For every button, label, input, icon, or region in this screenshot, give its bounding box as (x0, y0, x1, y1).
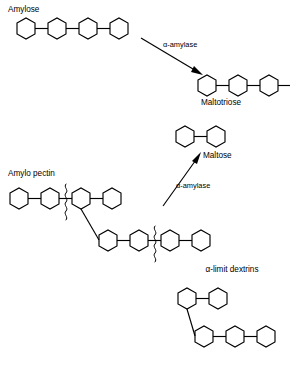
label-enzyme-alpha-amylase-top: α-amylase (163, 40, 197, 49)
label-alpha-limit-dextrins: α-limit dextrins (206, 265, 259, 274)
glucose-unit-hexagon-branch-point (72, 188, 90, 209)
glucose-unit-hexagon (198, 75, 216, 96)
alpha-1-6-branch-bond (187, 309, 195, 336)
glucose-unit-hexagon (130, 230, 148, 251)
glucose-unit-hexagon (103, 188, 121, 209)
label-enzyme-alpha-amylase-bottom: α-amylase (176, 181, 210, 190)
alpha-1-6-branch-bond (81, 209, 99, 240)
diagram-canvas: Amylose α-amylase Maltotriose Maltose (0, 0, 293, 366)
cleavage-site-squiggle (65, 184, 67, 220)
label-amylose: Amylose (8, 5, 40, 14)
glucose-unit-hexagon (260, 75, 278, 96)
arrow-head-icon (192, 152, 201, 164)
structure-alpha-limit-dextrins: α-limit dextrins (178, 265, 275, 347)
cleavage-site-squiggle (154, 226, 156, 262)
glucose-unit-hexagon (110, 18, 128, 39)
label-maltotriose: Maltotriose (201, 98, 241, 107)
glucose-unit-hexagon (48, 18, 66, 39)
glucose-unit-hexagon (195, 326, 213, 347)
glucose-unit-hexagon (209, 288, 227, 309)
glucose-unit-hexagon (79, 18, 97, 39)
glucose-unit-hexagon (161, 230, 179, 251)
glucose-unit-hexagon (226, 326, 244, 347)
reaction-arrow-amylose-to-maltotriose: α-amylase (141, 38, 203, 75)
structure-maltose: Maltose (176, 126, 232, 160)
glucose-unit-hexagon (229, 75, 247, 96)
glucose-unit-hexagon (41, 188, 59, 209)
starch-digestion-diagram: Amylose α-amylase Maltotriose Maltose (0, 0, 293, 366)
glucose-unit-hexagon (10, 188, 28, 209)
glucose-unit-hexagon (99, 230, 117, 251)
label-maltose: Maltose (203, 151, 232, 160)
glucose-unit-hexagon (207, 126, 225, 147)
glucose-unit-hexagon (176, 126, 194, 147)
structure-maltotriose: Maltotriose (198, 75, 290, 107)
glucose-unit-hexagon (192, 230, 210, 251)
structure-amylose: Amylose (8, 5, 128, 39)
glucose-unit-hexagon (257, 326, 275, 347)
label-amylopectin: Amylo pectin (8, 169, 55, 178)
reaction-arrow-amylopectin-to-maltose: α-amylase (163, 152, 210, 206)
glucose-unit-hexagon (17, 18, 35, 39)
glucose-unit-hexagon-branch-point (178, 288, 196, 309)
arrow-head-icon (191, 66, 203, 75)
